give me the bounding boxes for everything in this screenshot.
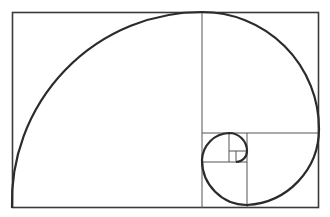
golden-spiral-diagram	[0, 0, 330, 217]
background	[0, 0, 330, 217]
